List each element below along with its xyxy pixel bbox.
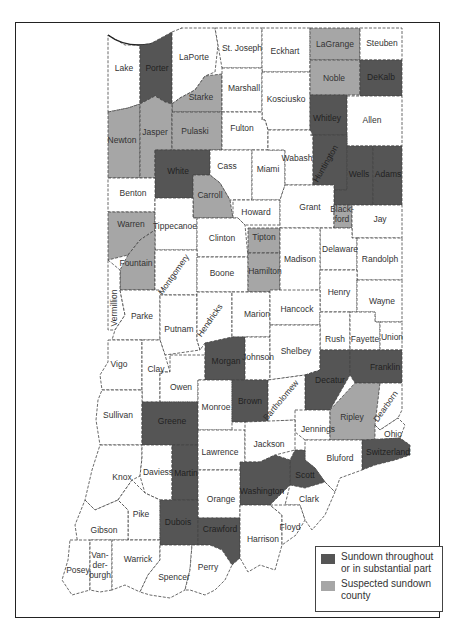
svg-text:Ripley: Ripley [340, 412, 364, 422]
county-lake[interactable] [108, 35, 140, 112]
svg-text:Jay: Jay [373, 214, 387, 224]
svg-text:Lake: Lake [115, 63, 134, 73]
legend-label-sundown-1: Sundown throughout [341, 551, 433, 562]
svg-text:Wabash: Wabash [282, 153, 313, 163]
svg-text:Wells: Wells [349, 169, 370, 179]
svg-text:Crawford: Crawford [203, 524, 238, 534]
svg-text:Sullivan: Sullivan [103, 410, 133, 420]
svg-text:Eckhart: Eckhart [271, 46, 300, 56]
svg-text:Noble: Noble [323, 73, 345, 83]
svg-text:Owen: Owen [170, 382, 192, 392]
svg-text:Hamilton: Hamilton [248, 266, 282, 276]
svg-text:Boone: Boone [210, 268, 235, 278]
svg-text:Jasper: Jasper [142, 127, 168, 137]
svg-text:Martin: Martin [174, 468, 198, 478]
svg-text:Wayne: Wayne [369, 296, 395, 306]
svg-text:Newton: Newton [108, 135, 137, 145]
svg-text:Union: Union [381, 332, 403, 342]
svg-text:Pulaski: Pulaski [181, 126, 209, 136]
svg-text:burgh: burgh [89, 570, 111, 580]
svg-text:Adams: Adams [375, 169, 401, 179]
svg-text:Rush: Rush [325, 334, 345, 344]
svg-text:Switzerland: Switzerland [366, 447, 410, 457]
county-rush[interactable] [320, 312, 350, 350]
svg-text:Jennings: Jennings [301, 424, 335, 434]
svg-text:Black-: Black- [330, 204, 354, 214]
legend-item-suspected: Suspected sundown county [321, 578, 437, 602]
svg-text:St. Joseph: St. Joseph [222, 43, 262, 53]
svg-text:Gibson: Gibson [91, 525, 118, 535]
svg-text:Harrison: Harrison [247, 534, 279, 544]
svg-text:Bluford: Bluford [327, 453, 354, 463]
svg-text:Delaware: Delaware [322, 244, 358, 254]
svg-text:DeKalb: DeKalb [367, 72, 395, 82]
svg-text:Kosciusko: Kosciusko [267, 94, 306, 104]
svg-text:Monroe: Monroe [202, 402, 231, 412]
svg-text:Shelbey: Shelbey [281, 346, 312, 356]
svg-text:Madison: Madison [284, 254, 316, 264]
svg-text:Spencer: Spencer [158, 572, 190, 582]
svg-text:Morgan: Morgan [212, 356, 241, 366]
svg-text:Ohio: Ohio [384, 429, 402, 439]
svg-text:Vigo: Vigo [111, 359, 128, 369]
svg-text:Carroll: Carroll [197, 190, 222, 200]
svg-text:Tippecanoe: Tippecanoe [153, 221, 197, 231]
indiana-county-map: Lake Porter LaPorte St. Joseph Eckhart L… [0, 0, 465, 633]
svg-text:Knox: Knox [112, 472, 132, 482]
svg-text:Hancock: Hancock [280, 304, 314, 314]
svg-text:Johnson: Johnson [242, 352, 274, 362]
svg-text:Fulton: Fulton [230, 123, 254, 133]
svg-text:Posey: Posey [66, 565, 90, 575]
svg-text:Clark: Clark [299, 494, 320, 504]
legend-item-sundown: Sundown throughout or in substantial par… [321, 551, 437, 575]
svg-text:Marshall: Marshall [228, 83, 260, 93]
county-miami[interactable] [252, 150, 285, 200]
svg-text:Parke: Parke [131, 311, 153, 321]
svg-text:LaGrange: LaGrange [316, 39, 354, 49]
legend-label-suspected-1: Suspected sundown [341, 578, 431, 589]
svg-text:Floyd: Floyd [280, 522, 301, 532]
svg-text:Van-: Van- [91, 550, 108, 560]
svg-text:Benton: Benton [120, 188, 147, 198]
svg-text:Randolph: Randolph [362, 254, 399, 264]
svg-text:Orange: Orange [207, 494, 236, 504]
svg-text:Dubois: Dubois [165, 517, 191, 527]
svg-text:Fountain: Fountain [119, 258, 152, 268]
svg-text:Marion: Marion [244, 309, 270, 319]
svg-text:Clay: Clay [147, 364, 165, 374]
legend-label-sundown-2: or in substantial part [341, 563, 431, 574]
svg-text:Howard: Howard [241, 207, 271, 217]
svg-text:Cass: Cass [217, 161, 236, 171]
svg-text:ford: ford [335, 214, 350, 224]
county-washington[interactable] [240, 455, 290, 505]
svg-text:Warren: Warren [117, 219, 145, 229]
svg-text:Miami: Miami [257, 164, 280, 174]
svg-text:Franklin: Franklin [370, 362, 401, 372]
svg-text:Perry: Perry [198, 562, 219, 572]
svg-text:Decatur: Decatur [315, 375, 345, 385]
svg-text:Lawrence: Lawrence [202, 447, 239, 457]
svg-text:LaPorte: LaPorte [179, 52, 209, 62]
svg-text:Tipton: Tipton [252, 232, 276, 242]
svg-text:Jackson: Jackson [253, 439, 284, 449]
svg-text:Clinton: Clinton [209, 233, 236, 243]
svg-text:Allen: Allen [363, 115, 382, 125]
svg-text:Whitley: Whitley [313, 113, 342, 123]
svg-text:Steuben: Steuben [366, 38, 398, 48]
svg-text:Putnam: Putnam [164, 324, 193, 334]
svg-text:Grant: Grant [299, 202, 321, 212]
legend-label-suspected-2: county [341, 590, 370, 601]
svg-text:Pike: Pike [133, 509, 150, 519]
svg-text:Greene: Greene [158, 416, 187, 426]
svg-text:Scott: Scott [295, 470, 315, 480]
svg-text:Porter: Porter [145, 63, 168, 73]
svg-text:Warrick: Warrick [124, 554, 153, 564]
svg-text:Fayette: Fayette [351, 334, 380, 344]
suspected-swatch [321, 581, 335, 591]
svg-text:Starke: Starke [189, 92, 214, 102]
svg-text:White: White [167, 166, 189, 176]
sundown-swatch [321, 554, 335, 564]
svg-text:Washington: Washington [240, 486, 285, 496]
svg-text:Daviess: Daviess [143, 467, 173, 477]
map-legend: Sundown throughout or in substantial par… [315, 546, 443, 612]
